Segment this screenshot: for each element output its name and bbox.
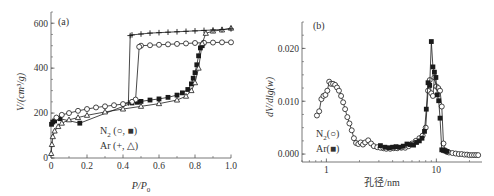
chart-a-series: [49, 25, 234, 155]
chart-a-panel-label: (a): [58, 16, 69, 28]
data-point-open-circle: [220, 40, 225, 45]
data-point-open-circle: [438, 88, 443, 93]
data-point-open-circle: [317, 109, 322, 114]
data-point-filled-square: [394, 144, 399, 149]
x-tick-label: 1: [324, 165, 329, 175]
data-point-open-circle: [472, 153, 477, 158]
data-point-open-circle: [459, 152, 464, 157]
data-point-filled-square: [382, 145, 387, 150]
data-point-plus: [165, 29, 171, 35]
data-point-filled-square: [426, 80, 431, 85]
data-point-filled-square: [414, 140, 419, 145]
data-point-plus: [228, 26, 234, 32]
data-point-filled-square: [430, 65, 435, 70]
series-line: [128, 29, 231, 103]
data-point-open-circle: [456, 152, 461, 157]
series-line: [380, 42, 447, 152]
data-point-open-circle: [465, 152, 470, 157]
chart-b-panel-label: (b): [313, 20, 325, 32]
data-point-open-circle: [384, 146, 389, 151]
data-point-open-circle: [347, 121, 352, 126]
data-point-open-circle: [371, 144, 376, 149]
data-point-open-circle: [432, 75, 437, 80]
y-tick-label: 0: [43, 153, 48, 163]
data-point-open-circle: [423, 125, 428, 130]
x-tick-label: 0.6: [153, 161, 165, 171]
data-point-plus: [183, 29, 189, 35]
data-point-open-circle: [436, 86, 441, 91]
data-point-open-circle: [103, 104, 108, 109]
data-point-filled-square: [77, 121, 82, 126]
data-point-filled-square: [432, 70, 437, 75]
data-point-filled-square: [439, 147, 444, 152]
data-point-open-circle: [462, 152, 467, 157]
data-point-open-circle: [175, 41, 180, 46]
data-point-open-circle: [474, 153, 479, 158]
data-point-open-circle: [76, 108, 81, 113]
x-tick-label: 0: [49, 161, 54, 171]
data-point-open-circle: [157, 42, 162, 47]
data-point-open-circle: [395, 146, 400, 151]
data-point-open-circle: [427, 78, 432, 83]
data-point-filled-square: [417, 138, 422, 143]
data-point-open-circle: [85, 107, 90, 112]
data-point-open-circle: [409, 141, 414, 146]
data-point-open-circle: [335, 85, 340, 90]
data-point-filled-square: [390, 145, 395, 150]
data-point-open-circle: [467, 153, 472, 158]
data-point-filled-square: [397, 145, 402, 150]
data-point-filled-square: [401, 144, 406, 149]
data-point-open-circle: [184, 41, 189, 46]
data-point-filled-square: [429, 39, 434, 44]
data-point-open-circle: [366, 138, 371, 143]
data-point-open-circle: [439, 104, 444, 109]
data-point-open-circle: [446, 150, 451, 155]
data-point-open-circle: [443, 148, 448, 153]
data-point-filled-square: [433, 75, 438, 80]
data-point-open-circle: [476, 153, 481, 158]
data-point-open-circle: [445, 149, 450, 154]
data-point-open-circle: [450, 151, 455, 156]
data-point-open-triangle: [49, 151, 54, 156]
data-point-open-circle: [430, 93, 435, 98]
data-point-filled-square: [435, 93, 440, 98]
data-point-open-circle: [336, 88, 341, 93]
data-point-open-circle: [130, 99, 135, 104]
chart-a-x-axis-title: P/P0: [131, 180, 151, 194]
data-point-filled-square: [420, 136, 425, 141]
legend-ar: Ar(■): [316, 143, 339, 155]
x-tick-label: 1.0: [225, 161, 237, 171]
data-point-open-circle: [94, 105, 99, 110]
data-point-open-circle: [358, 140, 363, 145]
data-point-plus: [138, 31, 144, 37]
data-point-open-circle: [339, 93, 344, 98]
data-point-open-circle: [388, 146, 393, 151]
data-point-filled-square: [408, 142, 413, 147]
data-point-open-circle: [341, 100, 346, 105]
data-point-plus: [156, 30, 162, 36]
data-point-filled-square: [386, 145, 391, 150]
data-point-open-circle: [403, 145, 408, 150]
data-point-open-circle: [59, 112, 64, 117]
data-point-open-circle: [328, 81, 333, 86]
data-point-open-circle: [193, 40, 198, 45]
data-point-open-circle: [314, 113, 319, 118]
isotherm-chart-a: 00.20.40.60.81.00200400600 (a) N2 (○, ■)…: [0, 0, 260, 196]
data-point-filled-square: [424, 107, 429, 112]
data-point-open-triangle: [59, 120, 64, 125]
data-point-open-circle: [363, 140, 368, 145]
x-tick-label: 0.8: [189, 161, 201, 171]
data-point-open-circle: [333, 82, 338, 87]
data-point-filled-square: [422, 129, 427, 134]
chart-b-axes: 1100.0000.0100.020: [278, 22, 482, 175]
data-point-open-circle: [325, 88, 330, 93]
data-point-open-circle: [345, 115, 350, 120]
legend-n2: N2 (○, ■): [100, 125, 137, 139]
data-point-open-circle: [426, 88, 431, 93]
data-point-open-circle: [469, 153, 474, 158]
series-line: [52, 46, 203, 125]
series-line: [317, 77, 478, 155]
legend-ar: Ar (+, △): [100, 140, 138, 152]
data-point-open-circle: [413, 138, 418, 143]
data-point-open-circle: [369, 141, 374, 146]
